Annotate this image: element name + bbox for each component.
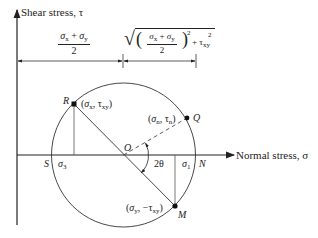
angle-arc xyxy=(141,143,149,173)
sigma3-label: σ3 xyxy=(58,159,66,171)
point-Q-coords: (σn, τn) xyxy=(148,114,176,126)
point-Q-label: Q xyxy=(193,113,200,123)
y-axis-label: Shear stress, τ xyxy=(21,7,83,18)
point-R-label: R xyxy=(63,96,69,106)
sigma1-label: σ1 xyxy=(182,159,190,171)
angle-label: 2θ xyxy=(154,159,164,169)
point-Q xyxy=(185,116,190,121)
point-N-label: N xyxy=(199,159,206,169)
point-S-label: S xyxy=(44,159,49,169)
point-R-coords: (σx, τxy) xyxy=(81,99,112,111)
point-R xyxy=(72,102,77,107)
center-offset-formula: σx + σy 2 xyxy=(46,31,102,56)
point-M-coords: (σy, −τxy) xyxy=(126,203,163,215)
point-O-label: O xyxy=(124,143,131,153)
point-M-label: M xyxy=(178,210,186,220)
x-axis-label: Normal stress, σ xyxy=(236,150,308,161)
point-M xyxy=(172,203,177,208)
